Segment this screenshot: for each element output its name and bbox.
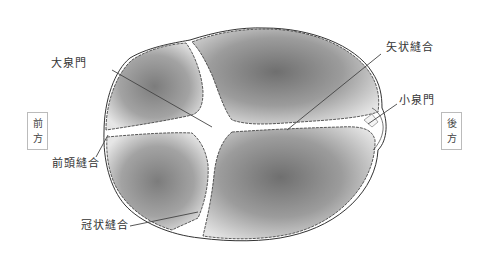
frontal-bone-right: [107, 133, 208, 230]
label-sagittal-suture: 矢状縫合: [386, 42, 434, 54]
direction-front-box: 前 方: [27, 112, 48, 150]
label-anterior-fontanelle: 大泉門: [51, 58, 87, 70]
parietal-bone-bottom: [203, 127, 375, 239]
direction-back-char-2: 方: [442, 131, 461, 146]
label-frontal-suture: 前頭縫合: [52, 158, 100, 170]
skull-diagram: [0, 0, 489, 258]
direction-front-char-1: 前: [28, 116, 47, 131]
direction-back-box: 後 方: [441, 112, 462, 150]
direction-front-char-2: 方: [28, 131, 47, 146]
direction-back-char-1: 後: [442, 116, 461, 131]
label-posterior-fontanelle: 小泉門: [399, 95, 435, 107]
label-coronal-suture: 冠状縫合: [81, 220, 129, 232]
